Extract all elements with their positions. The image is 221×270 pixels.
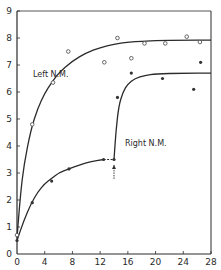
right-nm-point: [161, 77, 164, 80]
x-tick-label: 20: [150, 257, 162, 267]
y-tick-label: 9: [6, 6, 12, 16]
right-nm-point: [15, 239, 18, 242]
right-nm-label: Right N.M.: [125, 139, 167, 148]
right-nm-point: [192, 88, 195, 91]
left-nm-point: [185, 35, 189, 39]
y-tick-label: 5: [6, 114, 12, 124]
left-nm-point: [103, 61, 107, 65]
data-points: [15, 35, 202, 242]
chart: 04812162024280123456789 Left N.M. Right …: [0, 0, 221, 270]
right-nm-point: [102, 158, 105, 161]
right-nm-point: [67, 167, 70, 170]
left-nm-point: [116, 36, 120, 40]
left-nm-point: [163, 42, 167, 46]
y-tick-label: 2: [6, 195, 12, 205]
y-tick-label: 8: [6, 33, 12, 43]
right-nm-point: [130, 72, 133, 75]
x-tick-label: 8: [70, 257, 76, 267]
y-tick-label: 7: [6, 60, 12, 70]
left-nm-point: [66, 50, 70, 54]
x-tick-label: 16: [122, 257, 134, 267]
right-nm-point: [199, 61, 202, 64]
left-nm-point: [198, 40, 202, 44]
x-tick-label: 0: [14, 257, 20, 267]
x-tick-label: 12: [94, 257, 105, 267]
x-tick-label: 24: [178, 257, 190, 267]
x-tick-label: 28: [205, 257, 217, 267]
y-tick-label: 3: [6, 168, 12, 178]
left-nm-label: Left N.M.: [33, 70, 69, 79]
right-nm-point: [31, 201, 34, 204]
left-nm-point: [30, 123, 34, 127]
y-tick-label: 1: [6, 222, 12, 232]
y-tick-label: 6: [6, 87, 12, 97]
x-tick-label: 4: [42, 257, 48, 267]
right-nm-point: [50, 180, 53, 183]
y-tick-label: 4: [6, 141, 12, 151]
left-nm-point: [130, 56, 134, 60]
arrow-up-icon: [112, 165, 116, 179]
y-tick-label: 0: [6, 249, 12, 259]
right-nm-point: [116, 96, 119, 99]
left-nm-point: [51, 81, 55, 85]
left-nm-point: [15, 233, 19, 237]
left-nm-point: [143, 42, 147, 46]
right-nm-point: [112, 158, 115, 161]
